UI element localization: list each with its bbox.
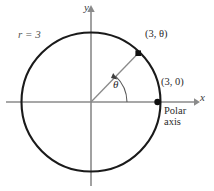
point-marker-3-0 [154,99,160,105]
polar-axis-label: Polar axis [164,105,186,127]
x-axis-label: x [200,92,205,104]
point-label-3-0: (3, 0) [161,76,184,87]
polar-circle-figure: r = 3 y x θ (3, θ) (3, 0) Polar axis [0,0,214,191]
polar-axis-label-line1: Polar [164,105,186,116]
polar-axis-label-line2: axis [164,116,186,127]
point-marker-3-theta [135,50,141,56]
y-axis-label: y [84,2,89,14]
angle-theta-label: θ [113,79,118,91]
point-label-3-theta: (3, θ) [145,28,168,39]
radius-equation-label: r = 3 [18,29,41,41]
